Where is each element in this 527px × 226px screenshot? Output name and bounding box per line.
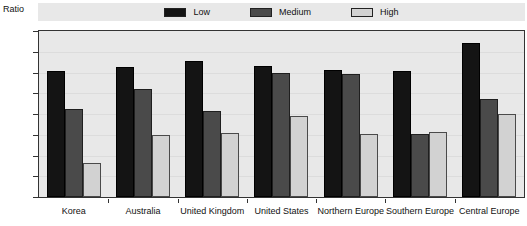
bar-korea-medium[interactable] xyxy=(65,109,83,197)
bar-united-states-high[interactable] xyxy=(290,116,308,197)
bar-group xyxy=(316,31,385,197)
y-axis-tick-mark xyxy=(33,73,38,74)
bar-group xyxy=(108,31,177,197)
x-axis-tick-mark xyxy=(108,199,109,203)
legend-swatch-low-icon xyxy=(164,8,186,17)
x-axis-category-label: Korea xyxy=(62,206,86,216)
y-axis-tick-mark xyxy=(33,197,38,198)
x-axis-tick-mark xyxy=(247,199,248,203)
y-axis-title: Ratio xyxy=(3,4,24,14)
y-axis-tick-mark xyxy=(33,135,38,136)
bar-southern-europe-high[interactable] xyxy=(429,132,447,197)
bar-southern-europe-low[interactable] xyxy=(393,71,411,197)
bar-united-kingdom-low[interactable] xyxy=(185,61,203,197)
legend-entry-low[interactable]: Low xyxy=(164,8,210,17)
bar-australia-low[interactable] xyxy=(116,67,134,197)
bar-central-europe-high[interactable] xyxy=(498,114,516,197)
bar-group xyxy=(178,31,247,197)
legend-swatch-medium-icon xyxy=(250,8,272,17)
bar-australia-medium[interactable] xyxy=(134,89,152,197)
plot-inner xyxy=(39,31,524,197)
y-axis-tick-mark xyxy=(33,156,38,157)
bar-central-europe-medium[interactable] xyxy=(480,99,498,197)
x-axis-tick-mark xyxy=(178,199,179,203)
x-axis-tick-mark xyxy=(385,199,386,203)
bar-group xyxy=(247,31,316,197)
bar-northern-europe-low[interactable] xyxy=(324,70,342,197)
bar-southern-europe-medium[interactable] xyxy=(411,134,429,197)
y-axis-tick-mark xyxy=(33,114,38,115)
bar-united-kingdom-high[interactable] xyxy=(221,133,239,197)
x-axis-category-label: Southern Europe xyxy=(386,206,454,216)
legend-entry-medium[interactable]: Medium xyxy=(250,8,311,17)
bar-korea-low[interactable] xyxy=(47,71,65,197)
legend-label-low: Low xyxy=(193,8,210,17)
x-axis-category-label: United States xyxy=(254,206,308,216)
bar-northern-europe-high[interactable] xyxy=(360,134,378,197)
legend-label-medium: Medium xyxy=(279,8,311,17)
x-axis-category-label: Northern Europe xyxy=(318,206,385,216)
bar-chart-figure: Ratio Low Medium High 0.00.20.40.60.81.0… xyxy=(0,0,527,226)
bar-group xyxy=(385,31,454,197)
bar-northern-europe-medium[interactable] xyxy=(342,74,360,197)
legend-entry-high[interactable]: High xyxy=(351,8,399,17)
legend-label-high: High xyxy=(380,8,399,17)
bar-korea-high[interactable] xyxy=(83,163,101,197)
chart-legend: Low Medium High xyxy=(38,3,525,21)
x-axis-tick-mark xyxy=(316,199,317,203)
bar-group xyxy=(39,31,108,197)
bar-australia-high[interactable] xyxy=(152,135,170,197)
bar-group xyxy=(455,31,524,197)
x-axis-tick-mark xyxy=(455,199,456,203)
bar-central-europe-low[interactable] xyxy=(462,43,480,197)
y-axis-tick-mark xyxy=(33,31,38,32)
y-axis-tick-mark xyxy=(33,176,38,177)
bar-united-kingdom-medium[interactable] xyxy=(203,111,221,197)
bar-united-states-low[interactable] xyxy=(254,66,272,197)
y-axis-tick-mark xyxy=(33,93,38,94)
legend-swatch-high-icon xyxy=(351,8,373,17)
bar-united-states-medium[interactable] xyxy=(272,73,290,198)
y-axis-tick-mark xyxy=(33,52,38,53)
plot-area xyxy=(38,30,525,198)
x-axis-category-label: Central Europe xyxy=(459,206,520,216)
x-axis-category-label: Australia xyxy=(125,206,160,216)
x-axis-category-label: United Kingdom xyxy=(180,206,244,216)
